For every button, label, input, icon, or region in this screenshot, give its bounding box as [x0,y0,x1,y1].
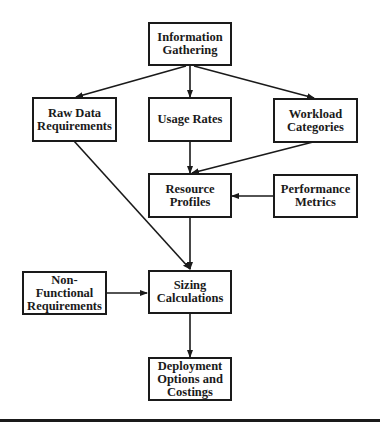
node-resource-profiles: Resource Profiles [148,173,232,218]
node-label: Non-Functional Requirements [27,274,102,313]
node-label: Performance Metrics [281,183,350,209]
node-usage-rates: Usage Rates [148,97,232,142]
node-label: Workload Categories [287,108,344,134]
node-label: Resource Profiles [153,183,227,209]
node-workload-categories: Workload Categories [273,98,358,143]
node-information-gathering: Information Gathering [148,22,232,66]
node-label: Deployment Options and Costings [157,360,223,399]
node-performance-metrics: Performance Metrics [273,174,358,218]
node-label: Information Gathering [157,31,222,57]
node-label: Sizing Calculations [157,279,224,305]
node-deployment-options-costings: Deployment Options and Costings [148,357,232,401]
flowchart-diagram: Information Gathering Raw Data Requireme… [0,0,380,429]
node-label: Usage Rates [158,113,223,126]
bottom-divider [0,419,380,422]
node-label: Raw Data Requirements [37,107,112,133]
edge-workload-to-resource [192,142,313,173]
node-non-functional-requirements: Non-Functional Requirements [22,271,107,315]
node-raw-data-requirements: Raw Data Requirements [32,97,117,142]
edge-info-to-rawdata [76,66,186,97]
node-sizing-calculations: Sizing Calculations [148,270,232,314]
edge-info-to-workload [194,66,314,98]
